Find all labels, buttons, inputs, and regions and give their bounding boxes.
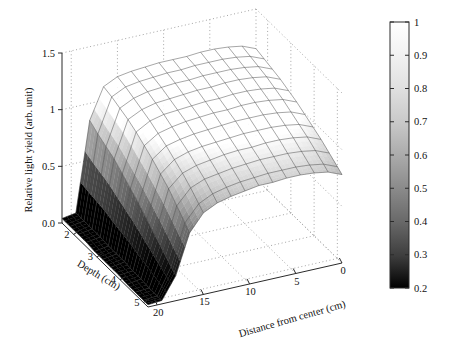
colorbar-tick-label: 0.4 — [414, 216, 428, 227]
z-axis-label: Relative light yield (arb. unit) — [23, 87, 35, 213]
colorbar-tick-label: 0.2 — [414, 283, 427, 294]
distance-tick-label: 20 — [153, 307, 164, 318]
distance-tick-label: 5 — [294, 276, 299, 287]
colorbar-tick-label: 0.5 — [414, 183, 427, 194]
colorbar-tick-label: 0.9 — [414, 50, 427, 61]
colorbar-tick-label: 0.3 — [414, 249, 427, 260]
surface-plot-figure: 0.00.511.5234520151050 Relative light yi… — [0, 0, 450, 353]
z-tick-label: 1 — [50, 104, 55, 115]
colorbar-tick-label: 0.8 — [414, 83, 427, 94]
depth-tick-label: 3 — [88, 251, 93, 262]
depth-tick-label: 5 — [134, 297, 139, 308]
distance-tick-label: 0 — [340, 265, 345, 276]
plot-canvas: 0.00.511.5234520151050 Relative light yi… — [0, 0, 450, 353]
distance-tick-label: 10 — [245, 286, 256, 297]
colorbar-tick-label: 0.7 — [414, 116, 427, 127]
depth-tick-label: 2 — [64, 229, 69, 240]
z-tick-label: 0.5 — [42, 161, 55, 172]
colorbar: 10.90.80.70.60.50.40.30.2 — [390, 17, 428, 294]
distance-tick-label: 15 — [199, 296, 210, 307]
z-tick-label: 0.0 — [42, 218, 55, 229]
colorbar-tick-label: 1 — [414, 17, 419, 28]
colorbar-tick-labels: 10.90.80.70.60.50.40.30.2 — [414, 17, 428, 294]
z-tick-label: 1.5 — [42, 48, 55, 59]
colorbar-tick-label: 0.6 — [414, 150, 427, 161]
